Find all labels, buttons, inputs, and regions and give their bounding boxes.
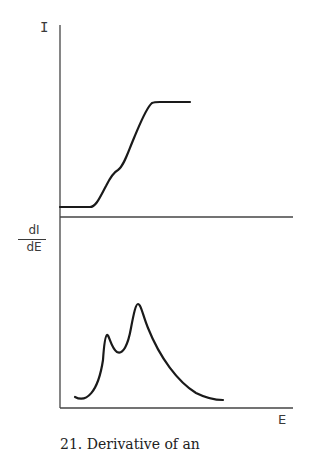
upper-y-axis-label: I [40, 20, 48, 34]
figure-caption: 21. Derivative of an [60, 436, 200, 452]
intensity-curve [60, 102, 190, 207]
lower-y-axis-label-denominator: dE [20, 241, 48, 253]
x-axis-label: E [278, 413, 286, 426]
lower-y-axis-label-numerator: dI [20, 224, 48, 236]
derivative-curve [75, 304, 223, 400]
